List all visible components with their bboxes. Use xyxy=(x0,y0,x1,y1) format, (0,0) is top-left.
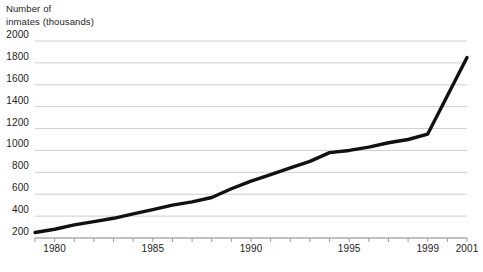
data-series-line xyxy=(35,57,467,232)
y-axis-tick-label: 400 xyxy=(3,204,29,215)
y-axis-tick-label: 1200 xyxy=(3,117,29,128)
series-line xyxy=(35,57,467,232)
x-axis-tick-label: 1995 xyxy=(329,243,369,254)
y-axis-tick-label: 800 xyxy=(3,160,29,171)
x-axis-tick-label: 1980 xyxy=(35,243,75,254)
y-axis-tick-label: 200 xyxy=(3,226,29,237)
y-axis-tick-label: 1600 xyxy=(3,73,29,84)
x-axis-tick-label: 1990 xyxy=(231,243,271,254)
y-axis-tick-label: 1800 xyxy=(3,51,29,62)
x-axis-tick-label: 2001 xyxy=(447,243,483,254)
x-axis-tick-label: 1999 xyxy=(408,243,448,254)
caption-remnant xyxy=(4,259,304,270)
y-axis-tick-label: 1000 xyxy=(3,138,29,149)
y-axis-tick-label: 2000 xyxy=(3,29,29,40)
x-axis-tick-label: 1985 xyxy=(133,243,173,254)
y-axis-tick-label: 1400 xyxy=(3,95,29,106)
x-axis-tick-marks xyxy=(35,238,467,242)
y-axis-tick-label: 600 xyxy=(3,182,29,193)
